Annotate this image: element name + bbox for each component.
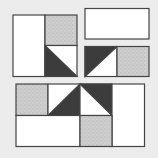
top-right-rectangle bbox=[85, 9, 149, 40]
plain-rectangle bbox=[85, 9, 149, 40]
plain-rectangle-vertical bbox=[112, 84, 145, 147]
stipple-square bbox=[80, 116, 112, 147]
stipple-square bbox=[16, 84, 48, 116]
plain-rectangle bbox=[13, 15, 45, 77]
stipple-square bbox=[45, 15, 77, 46]
quilt-diagram bbox=[0, 0, 158, 158]
bottom-unit bbox=[16, 84, 145, 147]
top-left-unit bbox=[13, 15, 77, 77]
middle-right-unit bbox=[85, 47, 149, 77]
plain-rectangle-horizontal bbox=[16, 116, 80, 147]
stipple-square bbox=[117, 47, 149, 77]
